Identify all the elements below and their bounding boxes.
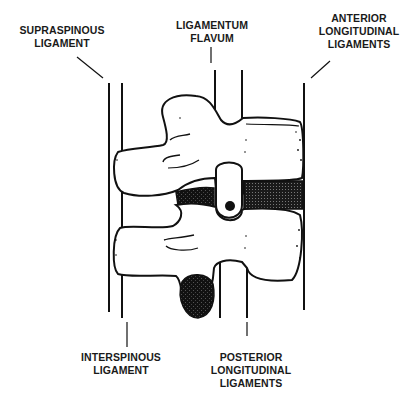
spinous-process-shadow xyxy=(180,275,214,318)
supraspinous-leader xyxy=(77,57,103,78)
intervertebral-disc xyxy=(244,181,303,209)
intervertebral-foramen xyxy=(225,201,235,211)
anterior-leader xyxy=(311,61,330,78)
vertebrae-diagram xyxy=(0,0,414,405)
